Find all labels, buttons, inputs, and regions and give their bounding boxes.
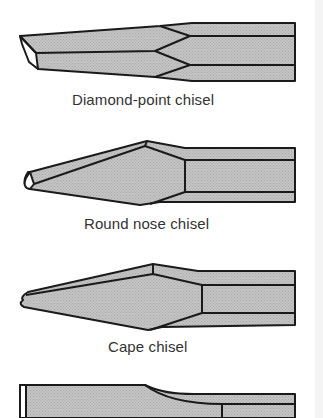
- round-nose-chisel-drawing: [24, 141, 295, 205]
- diamond-point-chisel-label: Diamond-point chisel: [72, 91, 214, 108]
- cape-chisel-label: Cape chisel: [108, 338, 187, 355]
- flat-chisel-drawing: [20, 385, 295, 418]
- round-nose-chisel-label: Round nose chisel: [84, 215, 209, 232]
- diamond-point-chisel-drawing: [20, 23, 295, 81]
- cape-chisel-drawing: [21, 264, 295, 330]
- chisel-illustrations: [0, 0, 323, 418]
